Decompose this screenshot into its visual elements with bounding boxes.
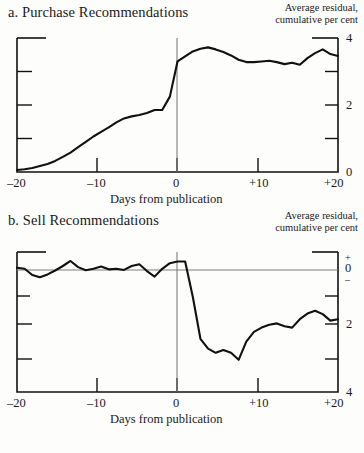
chart-panel-sell: b. Sell Recommendations Average residual… (0, 208, 364, 453)
panel-b-xtick-plus20: +20 (324, 396, 344, 411)
panel-a-xtick-minus20: –20 (7, 176, 26, 191)
panel-a-plot (0, 0, 364, 215)
panel-a-y-ticks-right (325, 72, 338, 139)
panel-b-xtick-plus10: +10 (249, 396, 269, 411)
figure-page: a. Purchase Recommendations Average resi… (0, 0, 364, 453)
panel-a-ytick-4: 4 (346, 31, 352, 46)
panel-a-xaxis-title: Days from publication (110, 192, 222, 207)
panel-b-xaxis-title: Days from publication (110, 412, 222, 427)
panel-b-ytick-4: 4 (346, 385, 352, 400)
panel-b-xtick-zero: 0 (173, 396, 179, 411)
chart-panel-purchase: a. Purchase Recommendations Average resi… (0, 0, 364, 215)
panel-b-ytick-2: 2 (346, 317, 352, 332)
panel-b-xtick-minus20: –20 (7, 396, 26, 411)
panel-b-ytick-zero-group: + 0 – (345, 253, 351, 284)
panel-b-xtick-minus10: –10 (87, 396, 106, 411)
panel-a-xtick-zero: 0 (173, 176, 179, 191)
panel-b-y-ticks-right (325, 296, 338, 359)
panel-a-ytick-2: 2 (346, 98, 352, 113)
panel-a-xtick-plus20: +20 (324, 176, 344, 191)
panel-a-ytick-0: 0 (346, 165, 352, 180)
panel-b-y-ticks (17, 296, 32, 359)
panel-a-xtick-plus10: +10 (249, 176, 269, 191)
panel-a-y-ticks (17, 72, 32, 139)
panel-a-xtick-minus10: –10 (87, 176, 106, 191)
panel-b-sign-minus: – (345, 275, 351, 284)
